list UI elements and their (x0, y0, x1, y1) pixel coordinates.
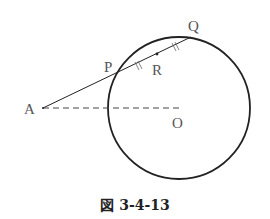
label-r: R (152, 62, 162, 78)
label-p: P (104, 59, 112, 75)
secant-line-aq (43, 37, 191, 108)
point-r (156, 53, 159, 56)
figure-caption: 図 3-4-13 (100, 197, 169, 213)
label-q: Q (188, 18, 199, 34)
geometry-figure: A P Q R O 図 3-4-13 (0, 0, 270, 219)
tick-marks-pr (135, 61, 142, 70)
point-a (42, 107, 44, 109)
label-o: O (172, 115, 183, 131)
label-a: A (24, 101, 35, 117)
